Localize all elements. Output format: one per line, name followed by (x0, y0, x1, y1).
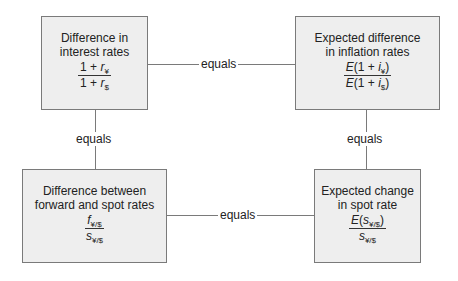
term: ) (385, 60, 389, 74)
title-line: in inflation rates (325, 45, 409, 59)
title-line: interest rates (60, 45, 129, 59)
formula-numerator: 1 + r¥ (78, 61, 111, 76)
title-line: Expected change (321, 184, 414, 198)
formula-denominator: s¥/$ (349, 229, 386, 243)
expectation: E (351, 213, 359, 227)
title-line: in spot rate (338, 198, 397, 212)
subscript: ¥/$ (91, 220, 102, 229)
formula-denominator: E(1 + i$) (344, 76, 392, 90)
formula-numerator: E(s¥/$) (349, 214, 386, 229)
expectation: E (346, 76, 354, 90)
formula-denominator: 1 + r$ (78, 76, 111, 90)
interest-formula: 1 + r¥ 1 + r$ (78, 61, 111, 90)
spot-change-formula: E(s¥/$) s¥/$ (349, 214, 386, 243)
formula-numerator: E(1 + i¥) (344, 61, 392, 76)
inflation-difference-box: Expected difference in inflation rates E… (295, 16, 440, 110)
forward-spot-difference-box: Difference between forward and spot rate… (22, 169, 167, 263)
connector-left-label: equals (74, 132, 113, 146)
expectation: E (346, 60, 354, 74)
box-title: Expected difference in inflation rates (296, 31, 439, 59)
term: 1 + (80, 60, 100, 74)
term: 1 + (80, 76, 100, 90)
connector-right-label: equals (345, 132, 384, 146)
term: ) (385, 76, 389, 90)
title-line: Expected difference (315, 31, 421, 45)
connector-top-label: equals (199, 57, 238, 71)
term: (1 + (354, 76, 378, 90)
subscript: ¥/$ (365, 236, 376, 245)
interest-rate-difference-box: Difference in interest rates 1 + r¥ 1 + … (41, 16, 148, 110)
box-title: Expected change in spot rate (315, 184, 420, 212)
term: (1 + (354, 60, 378, 74)
title-line: Difference between (43, 184, 146, 198)
title-line: forward and spot rates (35, 198, 154, 212)
title-line: Difference in (61, 31, 128, 45)
subscript: ¥/$ (369, 220, 380, 229)
formula-numerator: f¥/$ (85, 214, 103, 229)
formula-denominator: s¥/$ (85, 229, 103, 243)
inflation-formula: E(1 + i¥) E(1 + i$) (344, 61, 392, 90)
box-title: Difference in interest rates (42, 31, 147, 59)
subscript: ¥ (104, 67, 108, 76)
spot-rate-change-box: Expected change in spot rate E(s¥/$) s¥/… (314, 169, 421, 263)
subscript: ¥/$ (92, 236, 103, 245)
subscript: $ (104, 83, 108, 92)
term: ) (380, 213, 384, 227)
box-title: Difference between forward and spot rate… (23, 184, 166, 212)
forward-spot-formula: f¥/$ s¥/$ (85, 214, 103, 243)
connector-bottom-label: equals (218, 208, 257, 222)
